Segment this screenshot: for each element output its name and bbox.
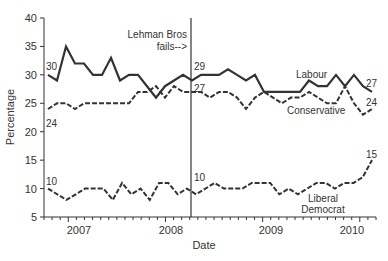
- labour-mid-value: 29: [194, 61, 206, 72]
- x-tick-label: 2007: [67, 224, 91, 236]
- libdem-series-label-line1: Liberal: [308, 193, 338, 204]
- conservative-end-value: 24: [366, 97, 378, 108]
- libdem-series-label-line2: Democrat: [301, 204, 345, 215]
- libdem-start-value: 10: [46, 176, 58, 187]
- lehman-annotation-line1: Lehman Bros: [128, 29, 187, 40]
- y-tick-label: 35: [25, 40, 37, 52]
- x-tick-label: 2009: [259, 224, 283, 236]
- labour-series-label: Labour: [296, 69, 328, 80]
- conservative-mid-value: 27: [194, 83, 206, 94]
- y-tick-label: 15: [25, 154, 37, 166]
- libdem-end-value: 15: [366, 149, 378, 160]
- lehman-annotation-line2: fails-->: [157, 41, 187, 52]
- x-tick-label: 2010: [340, 224, 364, 236]
- y-tick-label: 30: [25, 69, 37, 81]
- y-tick-label: 20: [25, 126, 37, 138]
- conservative-start-value: 24: [46, 118, 58, 129]
- y-tick-label: 5: [31, 211, 37, 223]
- conservative-series-label: Conservative: [287, 105, 346, 116]
- y-tick-label: 10: [25, 183, 37, 195]
- libdem-mid-value: 10: [194, 172, 206, 183]
- x-tick-label: 2008: [159, 224, 183, 236]
- labour-start-value: 30: [46, 61, 58, 72]
- labour-end-value: 27: [366, 78, 378, 89]
- y-axis-label: Percentage: [4, 89, 16, 145]
- chart-svg: 510152025303540Percentage200720082009201…: [0, 0, 388, 261]
- line-chart: 510152025303540Percentage200720082009201…: [0, 0, 388, 261]
- x-axis-label: Date: [192, 239, 215, 251]
- y-tick-label: 40: [25, 12, 37, 24]
- y-tick-label: 25: [25, 97, 37, 109]
